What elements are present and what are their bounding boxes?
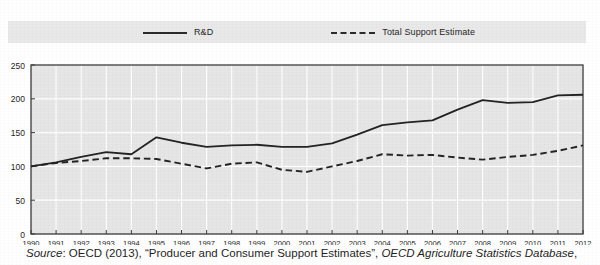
source-database: OECD Agriculture Statistics Database (381, 247, 574, 259)
x-tick-label: 2004 (374, 239, 391, 245)
y-tick-label: 200 (11, 94, 25, 104)
chart-canvas: 050100150200250 199019911992199319941995… (0, 55, 600, 245)
dashed-line-icon (331, 27, 375, 38)
x-tick-label: 2008 (474, 239, 491, 245)
legend-label-total-support-estimate: Total Support Estimate (382, 27, 475, 37)
x-tick-label: 1991 (48, 239, 65, 245)
legend-entry-rd: R&D (143, 27, 213, 38)
x-tick-label: 1998 (223, 239, 240, 245)
x-tick-label: 2011 (550, 239, 566, 245)
x-tick-label: 1990 (23, 239, 40, 245)
legend-label-rd: R&D (194, 27, 213, 37)
line-chart: 050100150200250 199019911992199319941995… (0, 55, 600, 245)
x-tick-label: 1994 (123, 239, 140, 245)
x-tick-label: 2000 (273, 239, 290, 245)
chart-legend: R&D Total Support Estimate (8, 21, 586, 43)
y-axis-tick-labels: 050100150200250 (11, 61, 25, 240)
x-tick-label: 2002 (324, 239, 341, 245)
legend-entry-total-support-estimate: Total Support Estimate (331, 27, 475, 38)
source-caption: Source: OECD (2013), “Producer and Consu… (26, 246, 592, 260)
source-trailing: , (574, 247, 577, 259)
source-label: Source (26, 247, 62, 259)
x-tick-label: 2012 (575, 239, 592, 245)
x-tick-label: 2001 (299, 239, 316, 245)
y-tick-label: 0 (20, 230, 25, 240)
y-tick-label: 250 (11, 61, 25, 71)
x-tick-label: 2005 (399, 239, 416, 245)
solid-line-icon (143, 27, 187, 38)
source-publisher: OECD (2013), “Producer and Consumer Supp… (69, 247, 382, 259)
x-axis-tick-labels: 1990199119921993199419951996199719981999… (23, 239, 592, 245)
x-tick-label: 2003 (349, 239, 366, 245)
x-tick-label: 1992 (73, 239, 90, 245)
x-tick-label: 2006 (424, 239, 441, 245)
x-tick-label: 2010 (524, 239, 541, 245)
x-tick-label: 1995 (148, 239, 165, 245)
x-tick-label: 1997 (198, 239, 215, 245)
x-tick-label: 1996 (173, 239, 190, 245)
y-tick-label: 150 (11, 128, 25, 138)
x-tick-label: 1993 (98, 239, 115, 245)
x-tick-label: 2009 (499, 239, 516, 245)
y-tick-label: 100 (11, 162, 25, 172)
x-tick-label: 1999 (248, 239, 265, 245)
y-tick-label: 50 (16, 196, 26, 206)
x-tick-label: 2007 (449, 239, 466, 245)
